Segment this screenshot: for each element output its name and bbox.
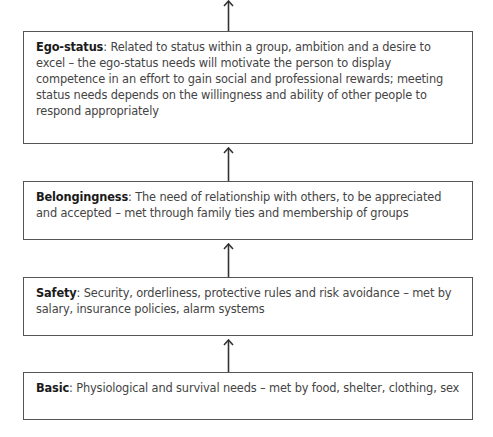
level-description: : Security, orderliness, protective rule… bbox=[36, 286, 451, 316]
level-title: Ego-status bbox=[36, 40, 103, 54]
arrow-up-icon bbox=[223, 243, 234, 277]
arrow-up-icon bbox=[223, 147, 234, 181]
arrow-up-icon bbox=[223, 0, 234, 31]
level-title: Belongingness bbox=[36, 190, 128, 204]
level-box-basic: Basic: Physiological and survival needs … bbox=[23, 372, 473, 420]
level-box-belongingness: Belongingness: The need of relationship … bbox=[23, 181, 473, 240]
level-box-safety: Safety: Security, orderliness, protectiv… bbox=[23, 277, 473, 336]
level-description: : Physiological and survival needs – met… bbox=[69, 381, 459, 395]
arrow-up-icon bbox=[223, 339, 234, 372]
level-title: Basic bbox=[36, 381, 69, 395]
level-title: Safety bbox=[36, 286, 77, 300]
level-box-ego-status: Ego-status: Related to status within a g… bbox=[23, 31, 473, 144]
